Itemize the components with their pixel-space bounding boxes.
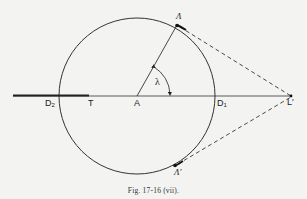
label-l-prime: L′: [287, 98, 294, 107]
label-t: T: [88, 99, 94, 108]
label-d1: D1: [217, 99, 227, 108]
label-center-a: A: [134, 99, 140, 108]
figure-canvas: Λ Λ′ A T D1 D2 L′ λ Fig. 17-16 (vii).: [0, 0, 307, 199]
label-d1-sub: 1: [224, 102, 227, 108]
dashed-line-upper: [180, 27, 291, 96]
point-lambda: [175, 24, 179, 28]
label-lambda-point: Λ: [176, 12, 181, 21]
dashed-line-lower: [178, 97, 291, 164]
label-d2-sub: 2: [52, 102, 55, 108]
figure-caption: Fig. 17-16 (vii).: [0, 186, 307, 195]
label-angle-lambda: λ: [155, 77, 160, 87]
label-lambda-prime-point: Λ′: [174, 168, 181, 177]
label-d2: D2: [45, 99, 55, 108]
